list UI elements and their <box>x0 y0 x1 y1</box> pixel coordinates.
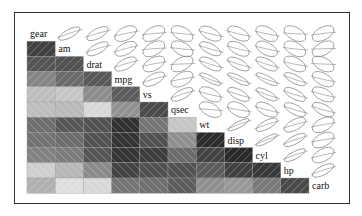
loess-line <box>283 75 308 83</box>
correlation-ellipse <box>226 71 250 88</box>
hatch-overlay <box>27 132 55 147</box>
correlation-ellipse <box>283 146 307 164</box>
loess-line <box>57 29 82 37</box>
variable-label: disp <box>227 135 244 146</box>
correlation-ellipse <box>255 71 279 88</box>
hatch-overlay <box>83 148 111 163</box>
variable-label: wt <box>199 119 209 130</box>
variable-label: mpg <box>115 74 133 85</box>
hatch-overlay <box>196 178 224 193</box>
corrgram-plot: gearamdratmpgvsqsecwtdispcylhpcarb <box>15 13 351 205</box>
corrgram-frame: gearamdratmpgvsqsecwtdispcylhpcarb <box>14 12 350 204</box>
correlation-ellipse <box>227 117 251 133</box>
variable-label: carb <box>312 180 329 191</box>
hatch-overlay <box>140 132 168 147</box>
hatch-overlay <box>83 117 111 132</box>
loess-line <box>255 121 280 129</box>
hatch-overlay <box>140 148 168 163</box>
hatch-overlay <box>196 148 224 163</box>
hatch-overlay <box>27 41 55 56</box>
hatch-overlay <box>112 87 140 102</box>
hatch-overlay <box>55 102 83 117</box>
hatch-overlay <box>112 102 140 117</box>
correlation-ellipse <box>170 85 195 104</box>
hatch-overlay <box>196 132 224 147</box>
hatch-overlay <box>253 178 281 193</box>
loess-line <box>255 75 280 84</box>
hatch-overlay <box>140 163 168 178</box>
hatch-overlay <box>112 178 140 193</box>
hatch-overlay <box>168 117 196 132</box>
correlation-ellipse <box>282 70 307 89</box>
correlation-ellipse <box>254 116 279 135</box>
hatch-overlay <box>27 148 55 163</box>
correlation-ellipse <box>255 132 279 148</box>
hatch-overlay <box>55 56 83 71</box>
hatch-overlay <box>140 178 168 193</box>
hatch-overlay <box>83 102 111 117</box>
variable-label: gear <box>30 28 48 39</box>
hatch-overlay <box>140 102 168 117</box>
hatch-overlay <box>112 117 140 132</box>
correlation-ellipse <box>198 71 222 88</box>
hatch-overlay <box>140 117 168 132</box>
correlation-ellipse <box>283 131 308 149</box>
variable-label: cyl <box>256 150 268 161</box>
loess-line <box>283 151 308 160</box>
hatch-overlay <box>55 178 83 193</box>
correlation-ellipse <box>254 85 279 103</box>
hatch-overlay <box>224 148 252 163</box>
hatch-overlay <box>27 56 55 71</box>
hatch-overlay <box>27 163 55 178</box>
loess-line <box>283 136 308 144</box>
hatch-overlay <box>253 163 281 178</box>
hatch-overlay <box>168 148 196 163</box>
hatch-overlay <box>281 178 309 193</box>
hatch-overlay <box>27 178 55 193</box>
variable-label: hp <box>284 165 294 176</box>
hatch-overlay <box>83 132 111 147</box>
hatch-overlay <box>112 132 140 147</box>
hatch-overlay <box>196 163 224 178</box>
hatch-overlay <box>55 87 83 102</box>
variable-label: am <box>58 43 70 54</box>
hatch-overlay <box>55 72 83 87</box>
hatch-overlay <box>168 163 196 178</box>
variable-label: drat <box>86 59 102 70</box>
hatch-overlay <box>27 117 55 132</box>
hatch-overlay <box>112 148 140 163</box>
hatch-overlay <box>83 163 111 178</box>
hatch-overlay <box>168 178 196 193</box>
loess-line <box>255 90 280 99</box>
hatch-overlay <box>55 132 83 147</box>
loess-line <box>311 166 336 174</box>
hatch-overlay <box>55 148 83 163</box>
correlation-ellipse <box>57 24 82 42</box>
correlation-ellipse <box>311 161 336 180</box>
hatch-overlay <box>83 178 111 193</box>
variable-label: vs <box>143 89 152 100</box>
hatch-overlay <box>27 102 55 117</box>
hatch-overlay <box>83 72 111 87</box>
hatch-overlay <box>224 163 252 178</box>
hatch-overlay <box>55 163 83 178</box>
variable-label: qsec <box>171 104 189 115</box>
hatch-overlay <box>112 163 140 178</box>
loess-line <box>226 75 251 84</box>
hatch-overlay <box>27 87 55 102</box>
hatch-overlay <box>55 117 83 132</box>
hatch-overlay <box>224 178 252 193</box>
hatch-overlay <box>83 87 111 102</box>
hatch-overlay <box>168 132 196 147</box>
hatch-overlay <box>27 72 55 87</box>
